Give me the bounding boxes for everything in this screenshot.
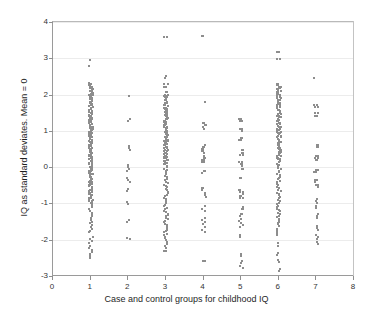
data-point [239,191,241,193]
plot-right-edge [353,21,354,276]
data-point [279,96,281,98]
data-point [203,170,205,172]
y-tick-mark [49,203,53,204]
data-point [278,171,280,173]
data-point [202,223,204,225]
x-tick-mark [127,276,128,280]
data-point [276,88,278,90]
data-point [89,257,91,259]
data-point [317,229,319,231]
data-point [316,217,318,219]
data-point [202,35,204,37]
data-point [279,210,281,212]
data-point [89,59,91,61]
data-point [277,135,279,137]
data-point [278,164,280,166]
data-point [163,205,165,207]
data-point [241,208,243,210]
y-tick-label: 2 [44,91,48,99]
data-point [239,177,241,179]
data-points-layer [53,22,354,276]
data-point [165,230,167,232]
data-point [201,161,203,163]
data-point [204,226,206,228]
data-point [91,183,93,185]
y-tick-mark [49,240,53,241]
data-point [166,166,168,168]
data-point [280,155,282,157]
data-point [278,161,280,163]
data-point [317,186,319,188]
data-point [242,193,244,195]
x-tick-label: 0 [50,282,54,291]
y-tick-label: 1 [44,127,48,135]
data-point [204,124,206,126]
data-point [238,189,240,191]
data-point [88,65,90,67]
data-point [242,197,244,199]
data-point [240,137,242,139]
data-point [278,202,280,204]
data-point [165,250,167,252]
data-point [317,106,319,108]
data-point [278,270,280,272]
y-tick-mark [49,95,53,96]
data-point [167,159,169,161]
data-point [239,154,241,156]
data-point [91,206,93,208]
data-point [203,128,205,130]
data-point [165,118,167,120]
data-point [127,203,129,205]
data-point [204,157,206,159]
data-point [204,101,206,103]
data-point [280,190,282,192]
data-point [126,237,128,239]
data-point [278,129,280,131]
data-point [276,254,278,256]
data-point [167,140,169,142]
x-tick-mark [353,276,354,280]
data-point [166,36,168,38]
data-point [276,173,278,175]
data-point [278,103,280,105]
data-point [276,234,278,236]
data-point [129,181,131,183]
y-tick-label: -1 [41,199,48,207]
x-axis-label: Case and control groups for childhood IQ [0,294,373,305]
data-point [201,189,203,191]
data-point [201,187,203,189]
data-point [239,197,241,199]
data-point [126,190,128,192]
data-point [241,213,243,215]
data-point [239,120,241,122]
x-tick-label: 4 [200,282,204,291]
data-point [163,104,165,106]
data-point [166,207,168,209]
x-tick-label: 5 [238,282,242,291]
data-point [314,106,316,108]
data-point [316,159,318,161]
data-point [128,95,130,97]
y-tick-mark [49,167,53,168]
data-point [316,179,318,181]
y-tick-label: -3 [41,272,48,280]
data-point [204,205,206,207]
data-point [279,106,281,108]
x-tick-mark [165,276,166,280]
data-point [279,180,281,182]
data-point [127,120,129,122]
y-axis-label: IQ as standard deviates. Mean = 0 [19,48,30,248]
x-axis-ticks: 012345678 [52,276,354,296]
data-point [276,58,278,60]
data-point [315,207,317,209]
data-point [240,255,242,257]
data-point [280,141,282,143]
data-point [316,115,318,117]
data-point [204,210,206,212]
data-point [88,231,90,233]
x-tick-mark [240,276,241,280]
data-point [204,231,206,233]
data-point [277,178,279,180]
data-point [128,219,130,221]
data-point [203,146,205,148]
